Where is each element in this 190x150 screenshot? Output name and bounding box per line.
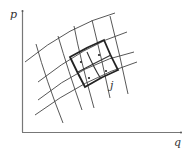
y-axis-label: p <box>10 8 17 21</box>
x-axis-label: q <box>174 136 181 149</box>
inner-line-h <box>78 55 111 72</box>
dot <box>105 70 107 72</box>
axes <box>22 11 181 133</box>
dot <box>88 77 90 79</box>
dot <box>98 54 100 56</box>
diagram-canvas <box>0 0 190 150</box>
dot <box>80 61 82 63</box>
curve-h3 <box>38 52 134 100</box>
curve-v4 <box>92 20 110 98</box>
x-axis-endpoint <box>180 132 182 134</box>
curve-h1 <box>25 13 115 62</box>
cell-label-j: j <box>110 79 113 92</box>
y-axis-endpoint <box>22 10 24 12</box>
